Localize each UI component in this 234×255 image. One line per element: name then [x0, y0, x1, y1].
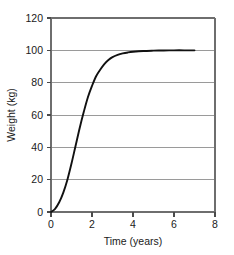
ytick-label-100: 100 [25, 44, 43, 56]
xtick-label-4: 4 [130, 218, 136, 230]
x-axis-title: Time (years) [104, 235, 163, 247]
ytick-label-120: 120 [25, 12, 43, 24]
x-axis-tick-labels: 0 2 4 6 8 [48, 218, 218, 230]
xtick-label-6: 6 [171, 218, 177, 230]
y-axis-title: Weight (kg) [5, 88, 17, 142]
xtick-label-2: 2 [89, 218, 95, 230]
ytick-label-20: 20 [31, 173, 43, 185]
ytick-label-40: 40 [31, 141, 43, 153]
ytick-label-0: 0 [37, 206, 43, 218]
ytick-label-60: 60 [31, 109, 43, 121]
ytick-label-80: 80 [31, 76, 43, 88]
xtick-label-0: 0 [48, 218, 54, 230]
y-axis-tick-labels: 0 20 40 60 80 100 120 [25, 12, 43, 218]
weight-vs-time-chart: 0 20 40 60 80 100 120 0 2 4 6 8 Time (ye… [0, 0, 234, 255]
xtick-label-8: 8 [212, 218, 218, 230]
chart-canvas: 0 20 40 60 80 100 120 0 2 4 6 8 Time (ye… [0, 0, 234, 255]
